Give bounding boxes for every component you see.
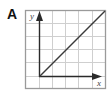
y-axis xyxy=(36,11,43,77)
coordinate-graph: y x xyxy=(0,0,111,92)
y-axis-arrow-icon xyxy=(36,11,43,21)
x-axis xyxy=(39,73,102,80)
y-axis-label: y xyxy=(29,11,34,21)
data-line xyxy=(40,11,106,77)
x-axis-label: x xyxy=(96,78,101,88)
